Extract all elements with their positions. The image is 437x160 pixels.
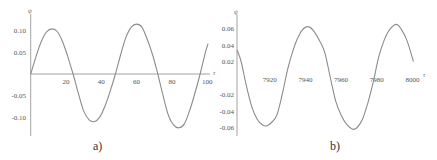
y-axis-name: ψ <box>28 8 32 14</box>
x-tick-label: 40 <box>98 78 106 86</box>
y-tick-label: 0.10 <box>14 27 27 35</box>
line-chart-b: ψ τ 792079407960798080000.060.040.02-0.0… <box>220 0 437 160</box>
y-tick-label: 0.02 <box>222 58 235 66</box>
data-curve <box>31 24 208 128</box>
y-tick-label: 0.04 <box>222 42 235 50</box>
y-tick-label: -0.05 <box>11 92 26 100</box>
x-tick-label: 7940 <box>298 76 313 84</box>
line-chart-a: ψ τ 204060801000.100.05-0.05-0.10 <box>0 0 220 160</box>
chart-panel-b: ψ τ 792079407960798080000.060.040.02-0.0… <box>220 0 437 160</box>
x-tick-label: 7980 <box>370 76 385 84</box>
y-tick-label: -0.04 <box>219 108 234 116</box>
y-tick-label: 0.06 <box>222 25 235 33</box>
chart-panel-a: ψ τ 204060801000.100.05-0.05-0.10 a) <box>0 0 220 160</box>
x-tick-label: 7960 <box>334 76 349 84</box>
panel-caption-b: b) <box>330 139 340 154</box>
x-tick-label: 7920 <box>263 76 278 84</box>
x-tick-label: 80 <box>168 78 176 86</box>
x-axis-name: τ <box>213 70 216 76</box>
x-tick-label: 100 <box>202 78 213 86</box>
x-tick-label: 60 <box>133 78 141 86</box>
y-tick-label: -0.02 <box>219 91 234 99</box>
y-tick-label: -0.10 <box>11 114 26 122</box>
x-tick-label: 8000 <box>406 76 421 84</box>
y-tick-label: 0.05 <box>14 49 27 57</box>
x-tick-label: 20 <box>63 78 71 86</box>
x-axis-name: τ <box>423 72 426 78</box>
panel-caption-a: a) <box>93 139 102 154</box>
y-axis-name: ψ <box>234 9 238 15</box>
y-tick-label: -0.06 <box>219 124 234 132</box>
